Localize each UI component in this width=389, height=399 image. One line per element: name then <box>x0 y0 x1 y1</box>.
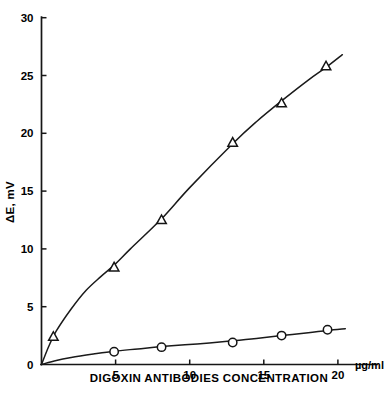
data-point-circle <box>110 348 118 356</box>
data-point-triangle <box>49 332 59 341</box>
x-axis-unit-label: µg/ml <box>355 359 384 371</box>
y-tick-label: 10 <box>21 243 34 255</box>
data-point-triangle <box>277 98 287 107</box>
x-axis-title: DIGOXIN ANTIBODIES CONCENTRATION <box>90 372 328 384</box>
x-tick-label: 20 <box>332 369 345 381</box>
y-tick-label: 15 <box>21 185 34 197</box>
chart-figure: 051015202530 5101520 DIGOXIN ANTIBODIES … <box>0 0 389 399</box>
data-point-triangle <box>109 262 119 271</box>
series-upper-curve-line <box>42 55 343 365</box>
y-tick-label: 20 <box>21 127 34 139</box>
data-point-circle <box>323 326 331 334</box>
y-axis-ticks: 051015202530 <box>21 12 47 371</box>
y-axis-title: ΔE, mV <box>4 181 16 223</box>
data-point-circle <box>277 331 285 339</box>
y-tick-label: 30 <box>21 12 34 24</box>
data-point-circle <box>157 343 165 351</box>
y-tick-label: 5 <box>27 301 34 313</box>
series-upper-curve-markers <box>49 61 331 340</box>
series-lower-curve-markers <box>110 326 332 356</box>
data-point-circle <box>228 338 236 346</box>
series-lower-curve-line <box>42 329 346 365</box>
y-tick-label: 25 <box>21 70 34 82</box>
scatter-plot-svg: 051015202530 5101520 DIGOXIN ANTIBODIES … <box>0 0 389 399</box>
data-point-triangle <box>228 138 238 147</box>
y-tick-label: 0 <box>27 359 33 371</box>
